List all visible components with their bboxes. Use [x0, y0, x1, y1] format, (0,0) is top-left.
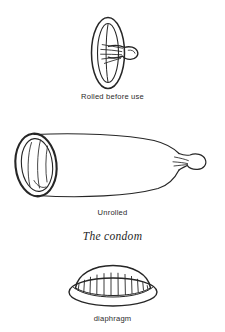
illustration-plate: Rolled before use [0, 0, 225, 332]
plate-title: The condom [0, 230, 225, 242]
rolled-condom-icon [82, 14, 152, 92]
diaphragm-illustration [62, 264, 164, 308]
unrolled-condom-icon [8, 122, 217, 208]
caption-diaphragm: diaphragm [0, 314, 225, 323]
rolled-condom-illustration [82, 14, 152, 92]
unrolled-condom-illustration [8, 122, 217, 208]
caption-unrolled: Unrolled [0, 208, 225, 217]
diaphragm-icon [62, 264, 164, 308]
caption-rolled-before-use: Rolled before use [0, 92, 225, 101]
